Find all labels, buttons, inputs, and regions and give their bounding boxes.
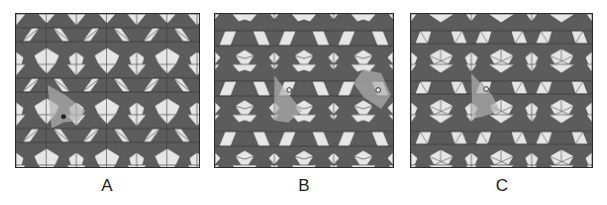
tiling-pattern-a	[16, 14, 199, 167]
rotation-center-marker-b2	[376, 88, 381, 93]
panel-label-c: C	[482, 176, 522, 196]
rotation-center-marker-a	[61, 114, 65, 118]
panel-label-a: A	[87, 176, 127, 196]
panel-label-b: B	[284, 176, 324, 196]
rotation-center-marker-b1	[287, 88, 292, 93]
rotation-center-marker-c	[484, 87, 489, 92]
tiling-panel-a	[15, 13, 200, 168]
tiling-panel-b	[214, 13, 394, 168]
tiling-panel-c	[410, 13, 593, 168]
tiling-pattern-b	[215, 14, 393, 167]
tiling-pattern-c	[411, 14, 592, 167]
